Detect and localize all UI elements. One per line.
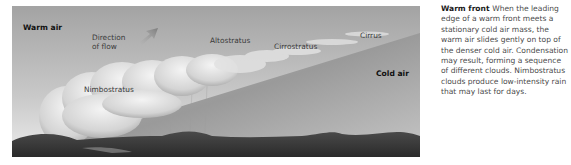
figure-caption: Warm front When the leading edge of a wa… [441,4,569,98]
warm-front-illustration: Warm air Direction of flow Altostratus C… [12,6,420,157]
cold-air-label: Cold air [376,69,409,78]
warm-front-diagram [12,6,420,157]
caption-body: When the leading edge of a warm front me… [441,4,568,96]
warm-air-label: Warm air [23,23,62,32]
direction-label-line1: Direction [92,33,125,42]
altostratus-label: Altostratus [210,36,250,45]
cirrostratus-label: Cirrostratus [274,42,317,51]
direction-label-line2: of flow [92,42,117,51]
nimbostratus-label: Nimbostratus [84,85,134,94]
cirrus-label: Cirrus [360,31,382,40]
caption-title: Warm front [441,4,492,13]
